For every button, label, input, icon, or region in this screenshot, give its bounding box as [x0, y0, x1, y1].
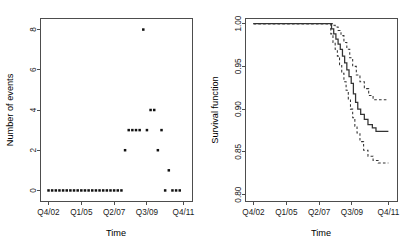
scatter-point: [73, 189, 76, 192]
left-plot-x-axis-title: Time: [106, 228, 126, 238]
left-plot-xtick-label: Q1/05: [70, 208, 93, 217]
scatter-point: [178, 189, 181, 192]
scatter-point: [153, 109, 156, 112]
scatter-point: [135, 129, 138, 132]
left-plot-xtick-label: Q4/02: [37, 208, 60, 217]
scatter-point: [142, 28, 145, 31]
scatter-point: [113, 189, 116, 192]
right-plot-y-axis-title: Survival function: [210, 76, 220, 143]
left-plot-ytick-label: 4: [29, 107, 38, 112]
scatter-point: [55, 189, 58, 192]
scatter-point: [84, 189, 87, 192]
right-plot-ytick-label: 0.90: [234, 101, 243, 117]
left-plot-ytick-label: 0: [29, 188, 38, 193]
left-plot-ticks: [37, 30, 183, 205]
scatter-point: [47, 189, 50, 192]
scatter-point: [160, 129, 163, 132]
scatter-point: [58, 189, 61, 192]
scatter-point: [171, 189, 174, 192]
scatter-point: [76, 189, 79, 192]
scatter-point: [91, 189, 94, 192]
scatter-point: [51, 189, 54, 192]
scatter-point: [146, 129, 149, 132]
scatter-point: [98, 189, 101, 192]
right-plot-xtick-label: Q1/05: [275, 208, 298, 217]
scatter-point: [69, 189, 72, 192]
survival-confidence-band-line: [254, 24, 389, 100]
right-plot-xtick-label: Q4/02: [242, 208, 265, 217]
panel-number-of-events: Q4/02Q1/05Q2/07Q3/09Q4/1102468 Time Numb…: [0, 0, 210, 246]
left-plot-ytick-label: 8: [29, 27, 38, 32]
scatter-point: [138, 129, 141, 132]
right-plot-ytick-label: 0.95: [234, 58, 243, 74]
left-plot-xtick-label: Q2/07: [103, 208, 126, 217]
right-plot-ytick-label: 0.80: [234, 186, 243, 202]
left-plot-xtick-label: Q4/11: [173, 208, 195, 217]
scatter-point: [62, 189, 65, 192]
scatter-point: [157, 149, 160, 152]
right-plot-ytick-label: 0.85: [234, 143, 243, 159]
left-plot-svg: Q4/02Q1/05Q2/07Q3/09Q4/1102468 Time Numb…: [0, 0, 210, 246]
scatter-point: [164, 189, 167, 192]
left-plot-xtick-label: Q3/09: [136, 208, 159, 217]
right-plot-frame: [246, 19, 398, 202]
scatter-point: [65, 189, 68, 192]
figure-two-panel-survival: Q4/02Q1/05Q2/07Q3/09Q4/1102468 Time Numb…: [0, 0, 419, 246]
scatter-point: [127, 129, 129, 132]
left-plot-ytick-label: 6: [29, 67, 38, 72]
left-plot-y-axis-title: Number of events: [5, 73, 15, 146]
scatter-point: [175, 189, 178, 192]
right-plot-xtick-label: Q4/11: [378, 208, 400, 217]
panel-survival-function: Q4/02Q1/05Q2/07Q3/09Q4/110.800.850.900.9…: [209, 0, 419, 246]
right-plot-xtick-label: Q3/09: [341, 208, 364, 217]
left-plot-data-points: [47, 28, 181, 191]
scatter-point: [124, 149, 127, 152]
scatter-point: [149, 109, 152, 112]
right-plot-ticks: [242, 24, 388, 205]
left-plot-frame: [41, 19, 193, 202]
scatter-point: [87, 189, 90, 192]
scatter-point: [117, 189, 120, 192]
survival-estimate-line: [254, 24, 389, 132]
scatter-point: [102, 189, 105, 192]
scatter-point: [106, 189, 109, 192]
scatter-point: [168, 169, 171, 172]
right-plot-x-axis-title: Time: [311, 228, 331, 238]
scatter-point: [80, 189, 83, 192]
left-plot-ytick-label: 2: [29, 148, 38, 153]
scatter-point: [120, 189, 123, 192]
scatter-point: [131, 129, 134, 132]
right-plot-series: [254, 24, 389, 163]
scatter-point: [109, 189, 112, 192]
right-plot-tick-labels: Q4/02Q1/05Q2/07Q3/09Q4/110.800.850.900.9…: [234, 15, 400, 216]
survival-confidence-band-line: [254, 24, 389, 163]
right-plot-svg: Q4/02Q1/05Q2/07Q3/09Q4/110.800.850.900.9…: [209, 0, 419, 246]
right-plot-ytick-label: 1.00: [234, 15, 243, 31]
right-plot-xtick-label: Q2/07: [308, 208, 331, 217]
left-plot-tick-labels: Q4/02Q1/05Q2/07Q3/09Q4/1102468: [29, 27, 195, 217]
scatter-point: [95, 189, 98, 192]
